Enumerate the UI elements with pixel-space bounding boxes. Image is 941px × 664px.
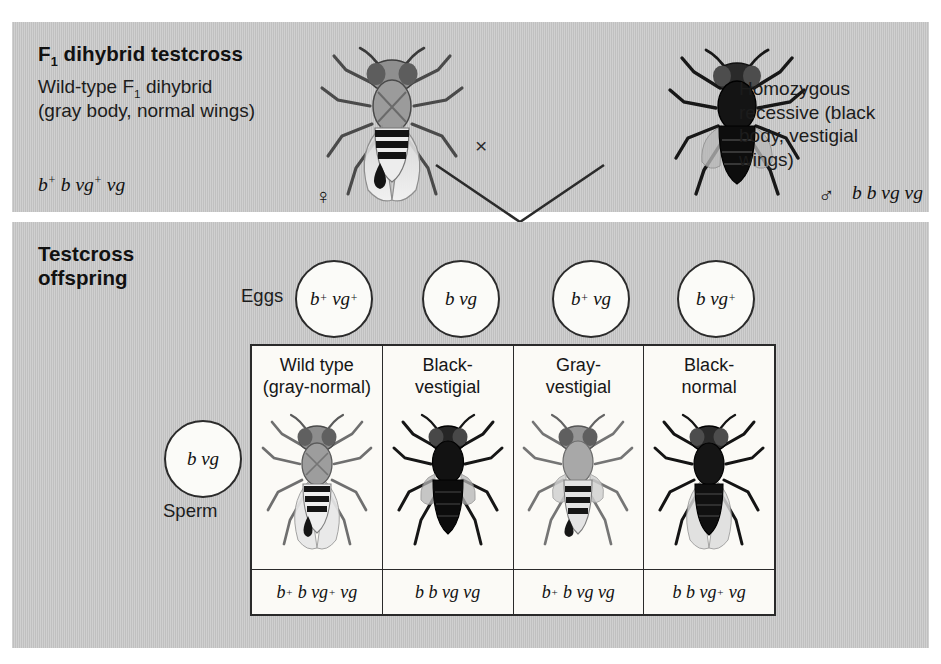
male-parent-description: Homozygous recessive (black body, vestig… bbox=[739, 77, 939, 171]
sperm-label: Sperm bbox=[163, 500, 218, 522]
f1-testcross-panel: F1 dihybrid testcross Wild-type F1 dihyb… bbox=[12, 22, 929, 212]
egg-gamete-3: b+ vg bbox=[552, 260, 630, 338]
egg-gamete-2: b vg bbox=[422, 260, 500, 338]
offspring-header-3: Gray- vestigial bbox=[546, 346, 611, 405]
figure-canvas: F1 dihybrid testcross Wild-type F1 dihyb… bbox=[0, 0, 941, 664]
male-symbol: ♂ bbox=[818, 185, 835, 207]
offspring-grid: Wild type (gray-normal) bbox=[250, 344, 776, 616]
offspring-genotype-2: b b vg vg bbox=[383, 569, 513, 614]
egg-gamete-1: b+ vg+ bbox=[295, 260, 373, 338]
offspring-column-wild-type: Wild type (gray-normal) bbox=[252, 346, 383, 614]
offspring-column-gray-vestigial: Gray- vestigial bbox=[514, 346, 645, 614]
eggs-label: Eggs bbox=[241, 285, 283, 307]
offspring-genotype-3: b+ b vg vg bbox=[514, 569, 644, 614]
panel-title-testcross-offspring: Testcross offspring bbox=[38, 242, 134, 290]
cross-symbol: × bbox=[475, 134, 487, 158]
offspring-fly-4 bbox=[644, 405, 774, 569]
sperm-gamete: b vg bbox=[164, 420, 242, 498]
panel-title-f1-testcross: F1 dihybrid testcross bbox=[38, 42, 243, 66]
offspring-fly-2 bbox=[383, 405, 513, 569]
offspring-fly-3 bbox=[514, 405, 644, 569]
offspring-column-black-vestigial: Black- vestigial bbox=[383, 346, 514, 614]
male-parent-genotype: b b vg vg bbox=[852, 182, 923, 204]
offspring-column-black-normal: Black- normal bbox=[644, 346, 774, 614]
offspring-header-1: Wild type (gray-normal) bbox=[263, 346, 371, 405]
offspring-genotype-1: b+ b vg+ vg bbox=[252, 569, 382, 614]
female-symbol: ♀ bbox=[315, 186, 332, 208]
offspring-fly-1 bbox=[252, 405, 382, 569]
female-parent-genotype: b+ b vg+ vg bbox=[38, 174, 125, 196]
offspring-header-4: Black- normal bbox=[682, 346, 737, 405]
offspring-genotype-4: b b vg+ vg bbox=[644, 569, 774, 614]
egg-gamete-4: b vg+ bbox=[677, 260, 755, 338]
offspring-header-2: Black- vestigial bbox=[415, 346, 480, 405]
female-parent-description: Wild-type F1 dihybrid(gray body, normal … bbox=[38, 75, 338, 122]
female-parent-fly-illustration bbox=[312, 44, 472, 212]
